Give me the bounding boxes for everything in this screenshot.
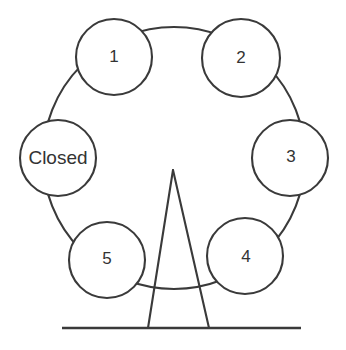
- support-stand: [148, 170, 209, 328]
- cabin-5-label: 5: [102, 249, 111, 268]
- cabin-1[interactable]: 1: [76, 19, 152, 95]
- ferris-wheel-diagram: Ferris wheel with numbered cabins 1 2 3: [0, 0, 346, 350]
- cabin-4-label: 4: [241, 247, 250, 266]
- cabin-3-label: 3: [286, 147, 295, 166]
- cabin-2-label: 2: [236, 48, 245, 67]
- cabin-4[interactable]: 4: [207, 218, 283, 294]
- cabin-5[interactable]: 5: [69, 222, 145, 298]
- cabin-3[interactable]: 3: [252, 120, 328, 196]
- support-leg-left: [148, 170, 173, 328]
- support-leg-right: [173, 170, 209, 328]
- cabin-closed[interactable]: Closed: [20, 120, 96, 196]
- cabin-2[interactable]: 2: [202, 19, 280, 97]
- cabin-closed-label: Closed: [28, 147, 87, 168]
- diagram-canvas: Ferris wheel with numbered cabins 1 2 3: [0, 0, 346, 350]
- cabin-1-label: 1: [109, 47, 118, 66]
